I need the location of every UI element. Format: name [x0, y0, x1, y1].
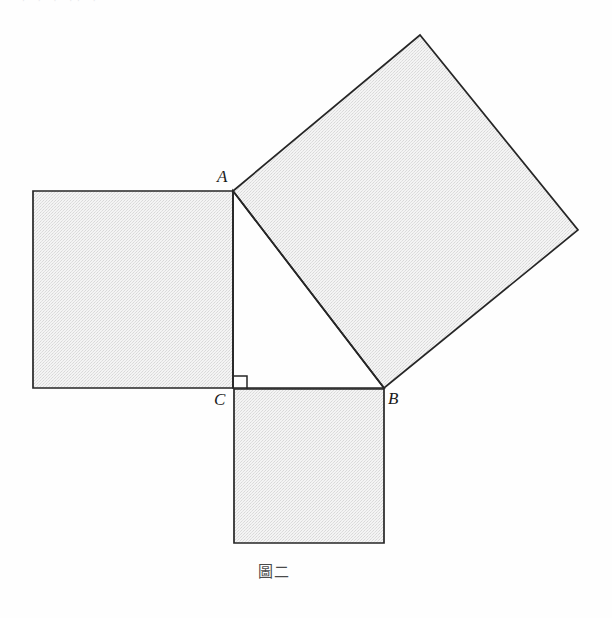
figure-caption: 圖二	[258, 560, 290, 581]
square-on-leg-ac	[33, 191, 233, 388]
vertex-label-c: C	[214, 391, 225, 408]
vertex-label-b: B	[388, 390, 398, 407]
scan-edge-artifact: · · · ·· ·	[22, 0, 101, 4]
vertex-label-a: A	[217, 168, 227, 185]
pythagorean-theorem-diagram	[0, 0, 612, 618]
square-on-leg-cb	[234, 389, 384, 543]
